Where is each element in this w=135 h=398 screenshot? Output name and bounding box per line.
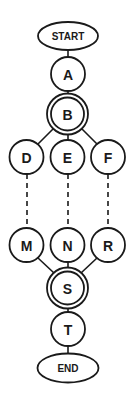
node-t[interactable]: T: [51, 312, 85, 346]
node-b[interactable]: B: [47, 94, 88, 135]
node-end-label: END: [57, 363, 78, 374]
node-a[interactable]: A: [51, 57, 85, 91]
node-f-label: F: [104, 150, 113, 166]
edge-m-s: [38, 258, 54, 273]
node-f[interactable]: F: [91, 140, 125, 174]
node-e[interactable]: E: [51, 140, 85, 174]
node-d[interactable]: D: [10, 140, 44, 174]
node-s-label: S: [63, 281, 72, 297]
node-start[interactable]: START: [38, 22, 98, 50]
edge-b-f: [82, 129, 97, 144]
flow-diagram: START A B D E F M N R S: [0, 0, 135, 398]
node-r[interactable]: R: [91, 228, 125, 262]
edge-b-d: [38, 129, 53, 144]
node-n-label: N: [62, 238, 72, 254]
node-e-label: E: [63, 150, 72, 166]
node-r-label: R: [103, 238, 113, 254]
node-d-label: D: [21, 150, 31, 166]
node-a-label: A: [63, 67, 73, 83]
node-t-label: T: [64, 322, 73, 338]
node-end[interactable]: END: [38, 354, 99, 383]
node-n[interactable]: N: [51, 228, 85, 262]
node-m-label: M: [21, 238, 33, 254]
node-b-label: B: [62, 107, 72, 123]
node-start-label: START: [52, 31, 85, 42]
node-m[interactable]: M: [10, 228, 44, 262]
edge-r-s: [81, 258, 97, 273]
node-s[interactable]: S: [47, 268, 88, 309]
